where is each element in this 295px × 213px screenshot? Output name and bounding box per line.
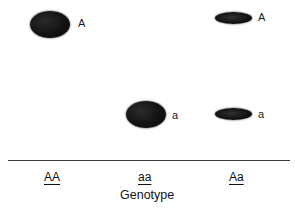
band-label-aa-a: a [172,110,178,121]
x-axis-tick-label-aa: aa [138,171,151,183]
band-aa-allele-a [126,101,166,128]
band-label-Aa-a: a [258,109,264,120]
band-label-Aa-A: A [258,12,265,23]
x-axis-title: Genotype [120,189,174,202]
x-axis-tick-label-Aa: Aa [229,171,244,183]
gel-electrophoresis-figure: A A a a AA aa Aa Genotype [0,0,295,213]
x-axis-tick-label-AA: AA [44,171,60,183]
band-Aa-allele-a [215,108,252,120]
gel-plot-area: A A a a [0,0,295,160]
band-AA-allele-A [30,11,70,38]
x-axis-line [8,160,290,161]
band-label-AA-A: A [78,18,85,29]
band-Aa-allele-A [215,12,252,24]
